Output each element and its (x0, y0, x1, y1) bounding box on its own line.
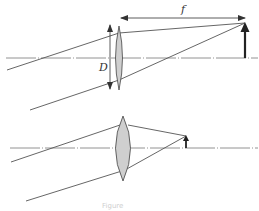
bottom-panel (10, 116, 258, 201)
ray-bottom-lower-refracted (125, 136, 186, 170)
figure-caption: Figure (102, 202, 123, 210)
ray-top-lower-incoming (30, 80, 119, 110)
ray-bottom-upper-incoming (11, 125, 120, 162)
top-panel: D f (6, 3, 258, 110)
aperture-label: D (98, 61, 108, 74)
ray-bottom-lower-incoming (26, 170, 125, 201)
lens-diagram: D f Figure (0, 0, 259, 211)
ray-bottom-upper-refracted (128, 125, 186, 136)
focal-length-label: f (180, 3, 187, 16)
